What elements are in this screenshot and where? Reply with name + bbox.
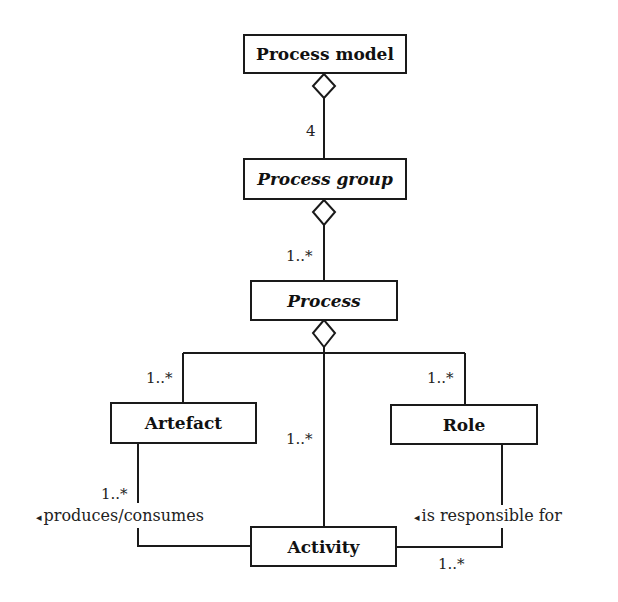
association-label: is responsible for [422,506,562,525]
class-label: Process group [257,169,393,189]
multiplicity-model-group: 4 [306,124,316,139]
multiplicity-group-process: 1..* [286,249,313,264]
association-line-artefact-activity-lower [138,528,250,546]
aggregation-diamond-icon [313,74,335,98]
association-produces-consumes: ◂produces/consumes [36,508,204,524]
class-label: Role [443,415,486,435]
multiplicity-process-artefact: 1..* [146,371,173,386]
class-label: Activity [288,537,360,557]
triangle-left-icon: ◂ [414,511,420,524]
class-label: Process [287,291,360,311]
class-label: Artefact [145,413,222,433]
multiplicity-artefact-activity: 1..* [101,487,128,502]
uml-diagram: Process model Process group Process Arte… [0,0,618,602]
multiplicity-process-role: 1..* [427,371,454,386]
association-is-responsible-for: ◂is responsible for [414,508,562,524]
class-process-group: Process group [243,158,407,200]
aggregation-diamond-icon [313,320,335,347]
aggregation-diamond-icon [313,200,335,225]
association-line-role-activity-lower [396,528,502,547]
class-process: Process [250,280,398,321]
class-process-model: Process model [243,34,407,74]
class-activity: Activity [250,526,397,567]
class-label: Process model [256,44,394,64]
association-label: produces/consumes [44,506,204,525]
multiplicity-role-activity: 1..* [438,557,465,572]
triangle-left-icon: ◂ [36,511,42,524]
multiplicity-process-activity: 1..* [286,432,313,447]
class-artefact: Artefact [110,402,257,444]
class-role: Role [390,404,538,445]
